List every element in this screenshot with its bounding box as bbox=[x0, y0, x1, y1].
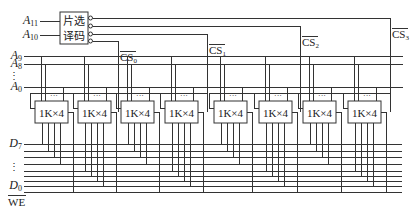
cs3-label: CS3 bbox=[392, 28, 409, 42]
chip2-label: 1K×4 bbox=[82, 107, 108, 119]
chip5-dots: ··· bbox=[229, 91, 237, 100]
decoder-label-1: 片选 bbox=[63, 15, 85, 27]
chip6-label: 1K×4 bbox=[263, 107, 289, 119]
we-label: WE bbox=[8, 196, 25, 208]
a0-label: A0 bbox=[10, 79, 22, 94]
chip7-label: 1K×4 bbox=[307, 107, 333, 119]
cs2-label: CS2 bbox=[302, 36, 319, 50]
inverter-bubble-3 bbox=[89, 16, 93, 20]
circuit-canvas: 片选译码A11A10CS0CS1CS2CS3A9A8⋮A0D7⋮D0WE···1… bbox=[0, 0, 419, 219]
data-ellipsis: ⋮ bbox=[9, 161, 19, 172]
chip4-label: 1K×4 bbox=[169, 107, 195, 119]
chip2-dots: ··· bbox=[93, 91, 101, 100]
chip3-label: 1K×4 bbox=[125, 107, 151, 119]
chip8-label: 1K×4 bbox=[352, 107, 378, 119]
a11-label: A11 bbox=[22, 13, 38, 28]
chip6-dots: ··· bbox=[274, 91, 282, 100]
d0-label: D0 bbox=[8, 178, 22, 193]
chip7-dots: ··· bbox=[318, 91, 326, 100]
d7-label: D7 bbox=[8, 136, 22, 151]
inverter-bubble-2 bbox=[89, 24, 93, 28]
inverter-bubble-0 bbox=[89, 39, 93, 43]
chip1-label: 1K×4 bbox=[39, 107, 65, 119]
cs0-label: CS0 bbox=[120, 51, 137, 65]
chip3-dots: ··· bbox=[136, 91, 144, 100]
chip8-dots: ··· bbox=[363, 91, 371, 100]
memory-expansion-diagram: 片选译码A11A10CS0CS1CS2CS3A9A8⋮A0D7⋮D0WE···1… bbox=[0, 0, 419, 219]
chip4-dots: ··· bbox=[180, 91, 188, 100]
a10-label: A10 bbox=[22, 27, 38, 42]
chip5-label: 1K×4 bbox=[218, 107, 244, 119]
chip1-dots: ··· bbox=[50, 91, 58, 100]
inverter-bubble-1 bbox=[89, 32, 93, 36]
decoder-label-2: 译码 bbox=[63, 30, 85, 42]
